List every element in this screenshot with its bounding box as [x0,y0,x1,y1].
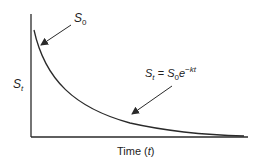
x-axis-close: ) [151,145,155,157]
y-axis-var: S [13,77,21,91]
decay-diagram [0,0,258,163]
arrow-s0 [41,25,71,45]
y-axis-label: St [13,78,23,93]
formula-eq: = [155,67,168,79]
x-axis-label: Time (t) [117,146,155,157]
formula-exponent: −kt [185,65,196,74]
x-axis-text: Time ( [117,145,148,157]
y-axis-sub: t [21,84,23,93]
arrow-formula [132,86,172,114]
annotation-s0-var: S [74,11,82,25]
formula-annotation: St = S0e−kt [145,66,196,82]
annotation-s0: S0 [74,12,86,27]
annotation-s0-sub: 0 [82,18,86,27]
decay-curve [34,30,244,136]
